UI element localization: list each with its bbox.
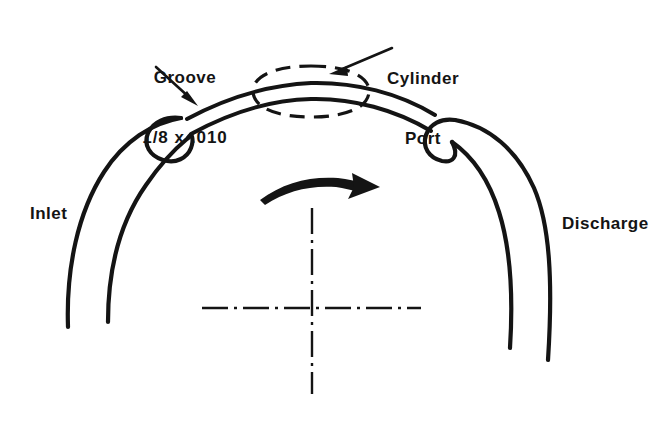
cylinder-port-label: Cylinder Port xyxy=(375,29,471,189)
cylinder-port-label-line1: Cylinder xyxy=(375,69,471,89)
groove-label: Groove 1/8 x .010 xyxy=(120,28,250,188)
cylinder-port-dashed-outline xyxy=(253,66,369,117)
discharge-label: Discharge xyxy=(562,214,649,234)
inlet-label: Inlet xyxy=(30,204,67,224)
groove-label-line1: Groove xyxy=(120,68,250,88)
diagram-canvas: Groove 1/8 x .010 Cylinder Port Inlet Di… xyxy=(0,0,667,427)
rotation-direction-arrow-shaft xyxy=(260,178,363,205)
groove-label-line2: 1/8 x .010 xyxy=(120,128,250,148)
cylinder-port-label-line2: Port xyxy=(375,129,471,149)
